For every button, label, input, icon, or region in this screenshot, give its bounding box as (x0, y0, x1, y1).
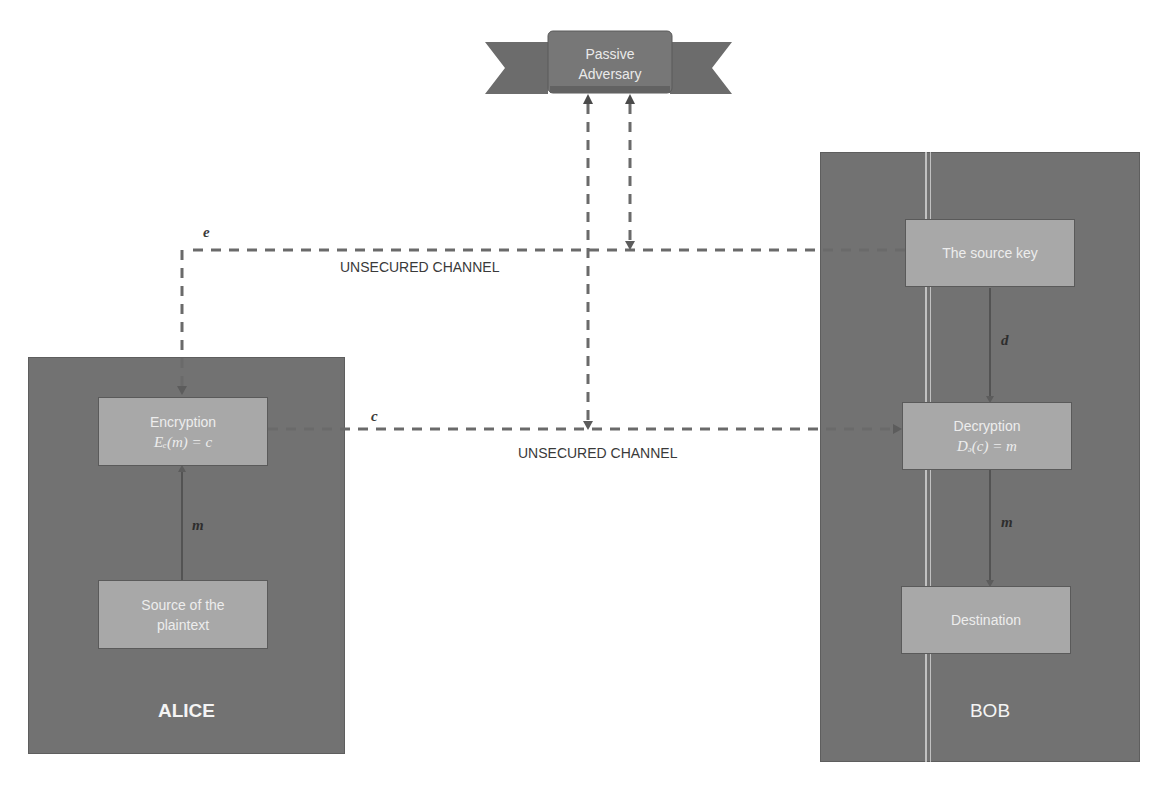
adversary-label-line2: Adversary (548, 64, 672, 84)
source-key-title: The source key (942, 243, 1038, 263)
key-channel-label: UNSECURED CHANNEL (340, 259, 499, 275)
decryption-node: Decryption Dₔ(c) = m (902, 402, 1072, 470)
decryption-title: Decryption (954, 416, 1021, 436)
encryption-title: Encryption (150, 412, 216, 432)
decryption-formula: Dₔ(c) = m (957, 436, 1017, 456)
key-channel-var: e (203, 224, 210, 241)
adversary-label: Passive Adversary (548, 44, 672, 84)
plaintext-source-node: Source of the plaintext (98, 580, 268, 649)
alice-m-label: m (192, 517, 204, 534)
encryption-node: Encryption Eₑ(m) = c (98, 397, 268, 466)
bob-m-label: m (1001, 514, 1013, 531)
bob-d-label: d (1001, 332, 1009, 349)
cipher-channel-label: UNSECURED CHANNEL (518, 445, 677, 461)
cipher-channel-var: c (371, 408, 378, 425)
diagram-connectors (0, 0, 1167, 786)
plaintext-source-line2: plaintext (157, 615, 209, 635)
bob-label: BOB (820, 700, 1160, 722)
source-key-node: The source key (905, 219, 1075, 287)
adversary-label-line1: Passive (548, 44, 672, 64)
destination-node: Destination (901, 586, 1071, 654)
encryption-formula: Eₑ(m) = c (154, 432, 212, 452)
alice-label: ALICE (28, 700, 345, 722)
plaintext-source-line1: Source of the (141, 595, 224, 615)
destination-title: Destination (951, 610, 1021, 630)
